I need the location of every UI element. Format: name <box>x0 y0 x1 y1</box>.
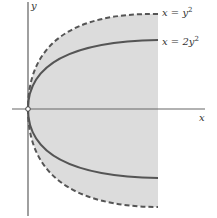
parabola-region-diagram: y x x = y2 x = 2y2 <box>0 0 217 218</box>
label-x-equals-y-squared: x = y2 <box>162 6 193 18</box>
y-axis-label: y <box>30 0 37 11</box>
origin-marker <box>26 107 31 112</box>
label-x-equals-2y-squared: x = 2y2 <box>162 35 199 47</box>
x-axis-label: x <box>199 112 205 123</box>
